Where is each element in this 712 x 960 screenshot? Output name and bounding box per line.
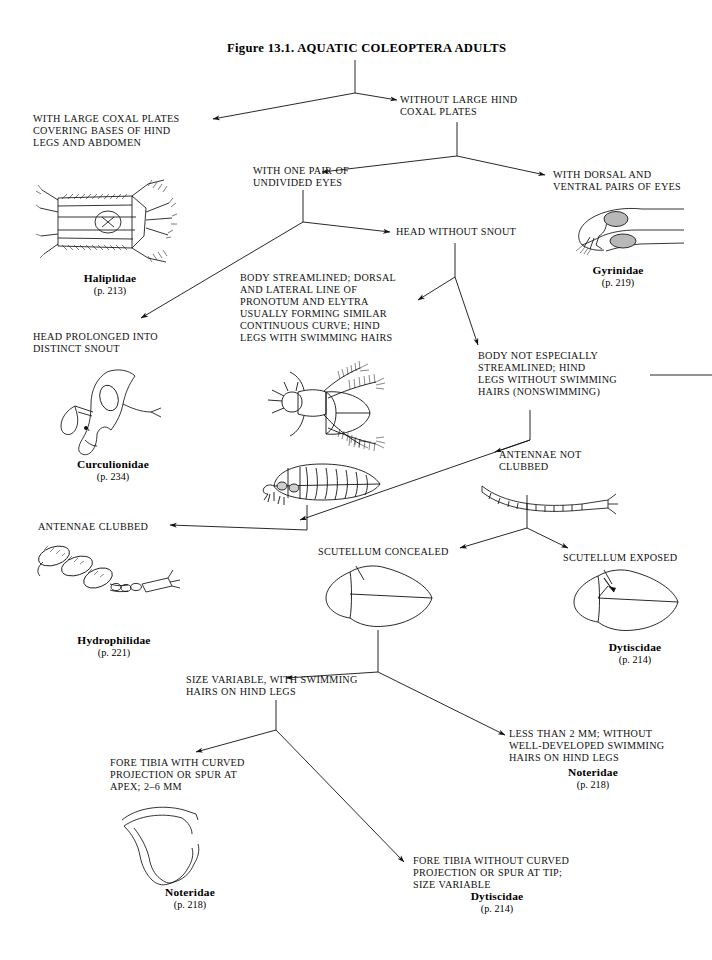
taxon-name: Dytiscidae (570, 641, 700, 654)
gyrinidae-illustration (566, 205, 706, 263)
couplet-without-large-hind-coxal-plates: WITHOUT LARGE HIND COXAL PLATES (400, 94, 517, 118)
taxon-page: (p. 214) (570, 654, 700, 667)
couplet-scutellum-concealed: SCUTELLUM CONCEALED (318, 546, 449, 558)
taxon-dytiscidae-scutellum: Dytiscidae (p. 214) (570, 641, 700, 667)
haliplidae-illustration (36, 172, 186, 267)
taxon-name: Haliplidae (40, 272, 180, 285)
taxon-name: Dytiscidae (413, 890, 581, 903)
taxon-hydrophilidae: Hydrophilidae (p. 221) (44, 634, 184, 660)
taxon-name: Hydrophilidae (44, 634, 184, 647)
taxon-page: (p. 221) (44, 647, 184, 660)
couplet-body-streamlined: BODY STREAMLINED; DORSAL AND LATERAL LIN… (240, 272, 396, 345)
taxon-page: (p. 218) (125, 899, 255, 912)
taxon-page: (p. 213) (40, 285, 180, 298)
taxon-name: Gyrinidae (548, 264, 688, 277)
taxon-dytiscidae-fore-tibia: Dytiscidae (p. 214) (413, 890, 581, 916)
couplet-antennae-not-clubbed: ANTENNAE NOT CLUBBED (499, 449, 581, 473)
scutellum-exposed-illustration (564, 566, 684, 634)
couplet-with-one-pair-of-undivided-eyes: WITH ONE PAIR OF UNDIVIDED EYES (253, 165, 349, 189)
taxon-page: (p. 218) (509, 779, 677, 792)
couplet-scutellum-exposed: SCUTELLUM EXPOSED (563, 552, 677, 564)
taxon-curculionidae: Curculionidae (p. 234) (43, 458, 183, 484)
taxon-haliplidae: Haliplidae (p. 213) (40, 272, 180, 298)
couplet-body-not-especially-streamlined: BODY NOT ESPECIALLY STREAMLINED; HIND LE… (478, 350, 617, 398)
couplet-size-variable-with-swimming-hairs: SIZE VARIABLE, WITH SWIMMING HAIRS ON HI… (186, 674, 358, 698)
couplet-with-dorsal-and-ventral-pairs-of-eyes: WITH DORSAL AND VENTRAL PAIRS OF EYES (553, 169, 681, 193)
fore-tibia-illustration (118, 800, 228, 892)
dytiscid-lateral-illustration (260, 458, 390, 508)
antenna-clubbed-illustration (32, 540, 187, 610)
antenna-filiform-illustration (478, 478, 623, 516)
taxon-gyrinidae: Gyrinidae (p. 219) (548, 264, 688, 290)
couplet-head-without-snout: HEAD WITHOUT SNOUT (396, 226, 516, 238)
taxon-noteridae-less-than-2mm: Noteridae (p. 218) (509, 766, 677, 792)
figure-page: Figure 13.1. AQUATIC COLEOPTERA ADULTS W… (0, 0, 712, 960)
scutellum-concealed-illustration (312, 562, 440, 630)
curculionidae-illustration (55, 368, 175, 460)
couplet-fore-tibia-without-curved-projection: FORE TIBIA WITHOUT CURVED PROJECTION OR … (413, 855, 569, 891)
couplet-with-large-coxal-plates: WITH LARGE COXAL PLATES COVERING BASES O… (33, 113, 179, 149)
taxon-page: (p. 214) (413, 903, 581, 916)
taxon-name: Noteridae (509, 766, 677, 779)
figure-title: Figure 13.1. AQUATIC COLEOPTERA ADULTS (227, 41, 506, 56)
couplet-less-than-2-mm: LESS THAN 2 MM; WITHOUT WELL-DEVELOPED S… (509, 728, 664, 764)
couplet-head-prolonged-into-distinct-snout: HEAD PROLONGED INTO DISTINCT SNOUT (33, 331, 158, 355)
taxon-page: (p. 219) (548, 277, 688, 290)
dytiscid-dorsal-illustration (252, 358, 402, 468)
couplet-antennae-clubbed: ANTENNAE CLUBBED (38, 521, 148, 533)
couplet-fore-tibia-with-curved-projection: FORE TIBIA WITH CURVED PROJECTION OR SPU… (110, 757, 245, 793)
taxon-page: (p. 234) (43, 471, 183, 484)
